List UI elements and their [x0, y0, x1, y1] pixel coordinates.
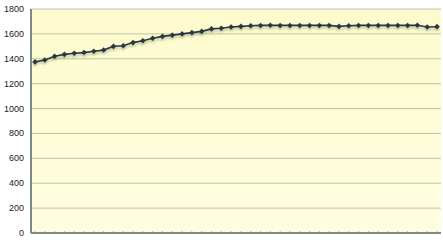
y-tick-label: 1000: [4, 104, 24, 114]
y-tick-label: 1400: [4, 54, 24, 64]
y-axis-labels: 020040060080010001200140016001800: [4, 4, 24, 238]
y-tick-label: 200: [9, 203, 24, 213]
y-tick-label: 600: [9, 153, 24, 163]
y-tick-label: 1200: [4, 79, 24, 89]
y-tick-label: 1800: [4, 4, 24, 14]
y-tick-label: 1600: [4, 29, 24, 39]
y-tick-label: 400: [9, 178, 24, 188]
plot-area: [31, 9, 441, 233]
y-tick-label: 800: [9, 128, 24, 138]
line-chart: 020040060080010001200140016001800: [0, 0, 443, 240]
y-tick-label: 0: [19, 228, 24, 238]
